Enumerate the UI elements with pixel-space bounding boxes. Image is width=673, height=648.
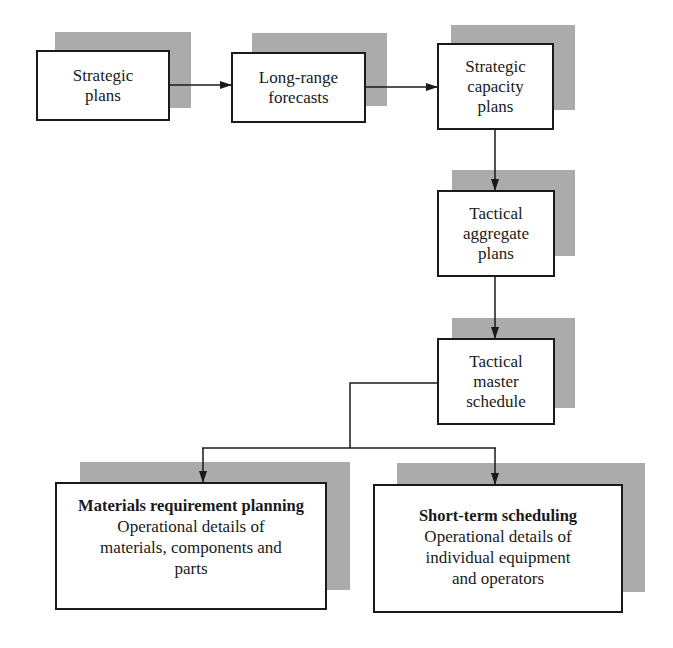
node-strategic-capacity-plans: Strategic capacity plans xyxy=(437,43,554,130)
node-label-line: Strategic xyxy=(465,57,525,77)
node-label-line: schedule xyxy=(466,392,525,412)
node-title: Short-term scheduling xyxy=(419,506,577,526)
node-label-line: capacity xyxy=(467,77,524,97)
node-detail-line: and operators xyxy=(452,568,544,589)
node-short-term-scheduling: Short-term scheduling Operational detail… xyxy=(373,484,623,613)
node-label-line: Long-range xyxy=(259,68,338,88)
node-detail-line: parts xyxy=(174,558,207,579)
node-title: Materials requirement planning xyxy=(78,496,304,516)
node-label-line: plans xyxy=(85,86,121,106)
node-label-line: Strategic xyxy=(73,66,133,86)
connector-master-branch xyxy=(350,383,438,448)
node-detail-line: Operational details of xyxy=(117,516,264,537)
node-materials-requirement-planning: Materials requirement planning Operation… xyxy=(55,482,327,610)
node-label-line: Tactical xyxy=(469,352,523,372)
node-long-range-forecasts: Long-range forecasts xyxy=(231,52,366,123)
node-label-line: plans xyxy=(478,244,514,264)
node-detail-line: Operational details of xyxy=(424,526,571,547)
node-label-line: plans xyxy=(478,97,514,117)
node-strategic-plans: Strategic plans xyxy=(36,50,170,121)
node-tactical-aggregate-plans: Tactical aggregate plans xyxy=(437,190,555,277)
node-detail-line: individual equipment xyxy=(426,547,571,568)
node-detail-line: materials, components and xyxy=(100,537,282,558)
node-label-line: aggregate xyxy=(463,224,529,244)
node-label-line: master xyxy=(473,372,518,392)
node-label-line: forecasts xyxy=(268,88,328,108)
node-tactical-master-schedule: Tactical master schedule xyxy=(437,338,555,425)
node-label-line: Tactical xyxy=(469,204,523,224)
